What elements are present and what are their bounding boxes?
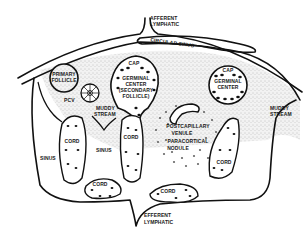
primary-follicle-label-2: FOLLICLE: [51, 77, 77, 83]
germinal-center-left-4: FOLLICLE): [122, 93, 149, 99]
cord-1: [59, 116, 86, 184]
muddy-stream-right-2: STREAM: [270, 111, 292, 117]
cap-left-label: CAP: [129, 60, 140, 66]
efferent-label-2: LYMPHATIC: [144, 219, 174, 225]
postcapillary-label-1: POSTCAPILLARY: [166, 123, 210, 129]
cord-5-label: CORD: [216, 159, 231, 165]
pcv-vessel: [81, 84, 99, 102]
efferent-label-1: EFFERENT: [144, 212, 171, 218]
germinal-center-right-2: CENTER: [217, 84, 238, 90]
cord-1-label: CORD: [64, 138, 79, 144]
cord-2: [120, 115, 143, 182]
cord-3-label: CORD: [92, 181, 107, 187]
cap-right-label: CAP: [223, 67, 234, 73]
sinus-left-label: SINUS: [40, 155, 56, 161]
cord-2-label: CORD: [123, 134, 138, 140]
muddy-stream-left-2: STREAM: [94, 111, 116, 117]
sinus-middle-label: SINUS: [96, 147, 112, 153]
paracortical-label-1: PARACORTICAL: [168, 138, 209, 144]
cord-4-label: CORD: [160, 188, 175, 194]
lymph-node-diagram: PRIMARY FOLLICLE PCV CAP GERMINAL CENTER…: [0, 0, 307, 235]
postcapillary-label-2: VENULE: [172, 130, 193, 136]
pcv-label: PCV: [64, 97, 75, 103]
paracortical-label-2: NODULE: [167, 145, 189, 151]
afferent-label-2: LYMPHATIC: [150, 21, 180, 27]
